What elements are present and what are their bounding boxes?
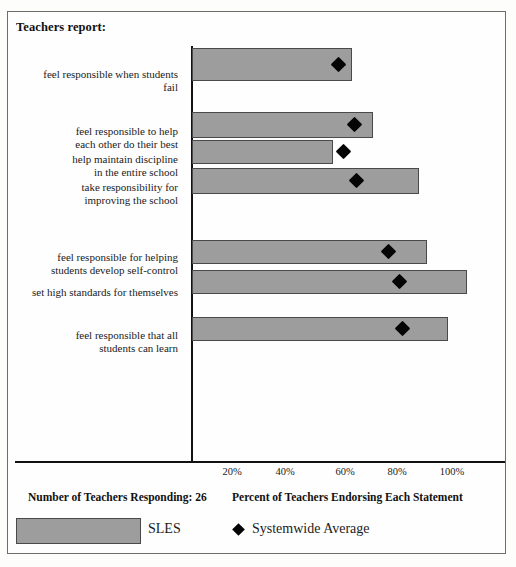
respondents-count-label: Number of Teachers Responding: 26 [28,491,207,503]
bar-0 [192,48,352,81]
legend-marker-label: Systemwide Average [252,521,370,537]
chart-page: Teachers report: feel responsible when s… [0,0,516,567]
x-axis-baseline [15,461,505,463]
x-tick-label-80: 80% [377,466,417,477]
x-tick-label-60: 60% [325,466,365,477]
category-label-4: feel responsible for helping students de… [19,251,178,277]
category-label-5: set high standards for themselves [19,286,178,299]
x-axis-caption: Percent of Teachers Endorsing Each State… [232,491,463,503]
category-label-1: feel responsible to help each other do t… [27,125,178,151]
bar-2 [192,140,333,164]
category-label-3: take responsibility for improving the sc… [27,181,178,207]
bar-3 [192,168,419,194]
x-tick-label-20: 20% [212,466,252,477]
marker-systemwide-2 [336,144,352,160]
bar-1 [192,112,373,138]
category-label-2: help maintain discipline in the entire s… [27,153,178,179]
bar-5 [192,270,467,294]
x-tick-label-40: 40% [265,466,305,477]
category-label-6: feel responsible that all students can l… [27,329,178,355]
legend-bar-swatch [16,518,141,544]
x-tick-label-100: 100% [432,466,472,477]
legend-bar-label: SLES [148,521,181,537]
category-label-0: feel responsible when students fail [27,68,178,94]
plot-area: feel responsible when students fail feel… [7,11,506,554]
